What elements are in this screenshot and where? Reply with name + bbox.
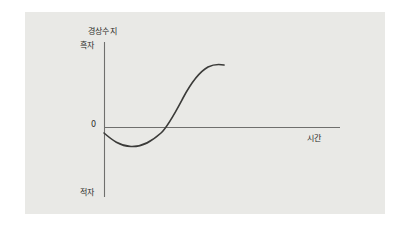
- y-axis-deficit-label: 적자: [80, 189, 94, 197]
- origin-zero-label: 0: [91, 121, 96, 129]
- j-curve-line: [104, 65, 224, 147]
- chart-svg: [0, 0, 411, 234]
- x-axis-time-label: 시간: [307, 135, 321, 143]
- y-axis-surplus-label: 흑자: [80, 42, 94, 50]
- y-axis-title: 경상수지: [88, 28, 117, 36]
- figure-root: 경상수지 흑자 0 적자 시간: [0, 0, 411, 234]
